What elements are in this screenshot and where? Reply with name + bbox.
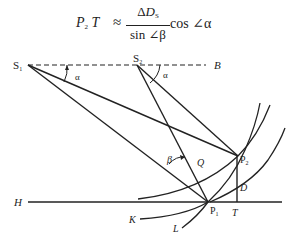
arc-l — [182, 202, 208, 228]
label-t: T — [232, 207, 239, 218]
line-s1-p1 — [28, 65, 208, 202]
label-alpha-s2: α — [163, 70, 168, 80]
label-k: K — [128, 214, 137, 225]
arc-k — [140, 202, 208, 219]
label-d: D — [239, 182, 248, 193]
label-p2: P2 — [240, 154, 249, 166]
label-s2: S2 — [133, 52, 142, 65]
label-h: H — [13, 196, 23, 208]
label-q: Q — [197, 157, 205, 168]
arrow-icon — [65, 65, 69, 70]
label-s1: S1 — [13, 59, 22, 72]
label-beta: β — [166, 154, 172, 165]
geometry-diagram: S1 S2 B H Q D T K L P1 P2 α α β — [0, 0, 295, 242]
line-s2-p2 — [137, 65, 238, 156]
line-s2-p1 — [137, 65, 208, 202]
label-l: L — [172, 223, 179, 234]
line-s1-p2 — [28, 65, 238, 156]
label-p1: P1 — [210, 205, 219, 217]
arc-through-q-p2 — [138, 105, 270, 199]
label-alpha-s1: α — [75, 72, 80, 82]
label-b: B — [214, 59, 221, 71]
